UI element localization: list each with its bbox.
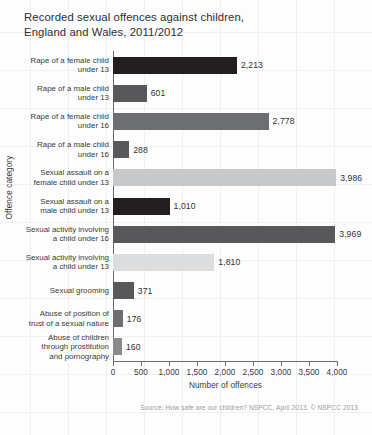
bar bbox=[113, 85, 147, 102]
bar-value-label: 1,810 bbox=[218, 257, 240, 267]
x-axis-tick-label: 3,000 bbox=[271, 368, 292, 377]
bar-value-label: 160 bbox=[126, 342, 141, 352]
bar-value-label: 371 bbox=[138, 286, 153, 296]
x-axis-tick-label: 1,000 bbox=[159, 368, 180, 377]
y-axis-category-label: Sexual activity involving a child under … bbox=[14, 220, 109, 248]
bar bbox=[113, 310, 123, 327]
y-axis-category-label: Sexual assault on a male child under 13 bbox=[14, 192, 109, 220]
y-axis-category-label: Abuse of children through prostitution a… bbox=[14, 333, 109, 361]
bar-value-label: 601 bbox=[151, 88, 166, 98]
x-axis-tick bbox=[113, 361, 114, 366]
source-note: Source: How safe are our children? NSPCC… bbox=[140, 404, 358, 411]
bar bbox=[113, 226, 335, 243]
y-axis-title: Offence category bbox=[5, 123, 14, 253]
x-axis-tick bbox=[169, 361, 170, 366]
x-axis-tick-label: 4,000 bbox=[327, 368, 348, 377]
y-axis-category-label: Sexual assault on a female child under 1… bbox=[14, 164, 109, 192]
bar bbox=[113, 57, 237, 74]
bar-value-label: 2,778 bbox=[273, 116, 295, 126]
x-axis-tick bbox=[197, 361, 198, 366]
y-axis-category-label: Sexual activity involving a child under … bbox=[14, 248, 109, 276]
x-axis-tick-label: 1,500 bbox=[187, 368, 208, 377]
bar bbox=[113, 338, 122, 355]
plot-area: 2,2136012,7782883,9861,0103,9691,8103711… bbox=[113, 51, 337, 361]
x-axis-tick-label: 2,500 bbox=[243, 368, 264, 377]
x-axis-tick bbox=[253, 361, 254, 366]
x-axis-tick bbox=[309, 361, 310, 366]
x-axis-tick-label: 2,000 bbox=[215, 368, 236, 377]
y-axis-category-label: Rape of a female child under 13 bbox=[14, 51, 109, 79]
bar-value-label: 3,969 bbox=[339, 229, 361, 239]
x-axis-tick-label: 3,500 bbox=[299, 368, 320, 377]
x-axis-tick bbox=[225, 361, 226, 366]
y-axis-category-label: Rape of a male child under 16 bbox=[14, 136, 109, 164]
bar-value-label: 3,986 bbox=[340, 173, 362, 183]
bar-value-label: 2,213 bbox=[241, 60, 263, 70]
x-axis-tick bbox=[141, 361, 142, 366]
chart-title: Recorded sexual offences against childre… bbox=[24, 10, 354, 39]
x-axis-title: Number of offences bbox=[113, 381, 338, 390]
y-axis-category-label: Abuse of position of trust of a sexual n… bbox=[14, 305, 109, 333]
x-axis-tick bbox=[281, 361, 282, 366]
bar bbox=[113, 169, 336, 186]
y-axis-category-label: Sexual grooming bbox=[14, 276, 109, 304]
bar bbox=[113, 282, 134, 299]
bar-value-label: 176 bbox=[127, 314, 142, 324]
y-axis-category-label: Rape of a male child under 13 bbox=[14, 79, 109, 107]
bar bbox=[113, 198, 170, 215]
bar bbox=[113, 254, 214, 271]
x-axis-tick-label: 0 bbox=[111, 368, 116, 377]
x-axis-tick-label: 500 bbox=[134, 368, 148, 377]
y-axis-category-label: Rape of a female child under 16 bbox=[14, 107, 109, 135]
y-axis-category-labels: Rape of a female child under 13Rape of a… bbox=[14, 51, 109, 361]
bar-value-label: 1,010 bbox=[174, 201, 196, 211]
x-axis-tick bbox=[337, 361, 338, 366]
chart-figure: Recorded sexual offences against childre… bbox=[0, 0, 372, 435]
bar bbox=[113, 141, 129, 158]
bar bbox=[113, 113, 269, 130]
bar-value-label: 288 bbox=[133, 145, 148, 155]
